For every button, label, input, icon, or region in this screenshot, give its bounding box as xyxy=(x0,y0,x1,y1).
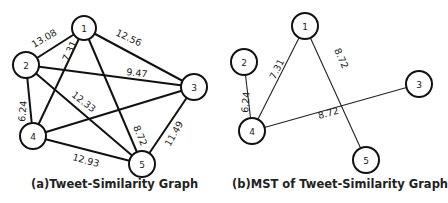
edge-label-a-3-5: 11.49 xyxy=(162,119,185,148)
svg-text:5: 5 xyxy=(139,160,145,170)
diagram-canvas: 13.08 7.31 12.56 8.72 9.47 12.33 6.24 11… xyxy=(0,0,448,203)
svg-text:4: 4 xyxy=(30,132,36,142)
svg-text:2: 2 xyxy=(241,58,247,68)
edge-a-2-3 xyxy=(26,65,194,87)
edge-label-a-2-5: 12.33 xyxy=(70,89,98,114)
svg-text:1: 1 xyxy=(302,22,308,32)
node-b-4: 4 xyxy=(239,118,265,144)
node-b-3: 3 xyxy=(406,71,432,97)
node-b-2: 2 xyxy=(231,49,257,75)
edge-label-b-3-4: 8.72 xyxy=(317,105,340,121)
edge-label-a-1-3: 12.56 xyxy=(114,27,143,48)
edge-b-1-5 xyxy=(305,26,366,160)
edge-label-b-2-4: 6.24 xyxy=(239,91,252,113)
node-a-5: 5 xyxy=(129,151,155,177)
svg-text:2: 2 xyxy=(23,61,29,71)
graph-b-nodes: 1 2 3 4 5 xyxy=(231,13,432,173)
graph-b: 7.31 8.72 6.24 8.72 1 2 3 4 xyxy=(231,13,432,173)
svg-text:5: 5 xyxy=(363,156,369,166)
caption-b: (b)MST of Tweet-Similarity Graph xyxy=(232,177,448,191)
svg-text:4: 4 xyxy=(249,127,255,137)
svg-text:3: 3 xyxy=(416,80,422,90)
edge-label-a-4-5: 12.93 xyxy=(71,151,100,169)
node-b-5: 5 xyxy=(353,147,379,173)
graph-b-edges xyxy=(244,26,419,160)
edge-label-a-2-4: 6.24 xyxy=(16,100,29,122)
edge-label-b-1-5: 8.72 xyxy=(332,46,351,70)
graph-a: 13.08 7.31 12.56 8.72 9.47 12.33 6.24 11… xyxy=(13,16,207,177)
node-b-1: 1 xyxy=(292,13,318,39)
node-a-1: 1 xyxy=(72,16,96,40)
node-a-4: 4 xyxy=(20,123,46,149)
node-a-2: 2 xyxy=(13,52,39,78)
edge-a-1-5 xyxy=(84,28,142,164)
node-a-3: 3 xyxy=(181,74,207,100)
svg-text:3: 3 xyxy=(191,83,197,93)
svg-text:1: 1 xyxy=(81,24,87,34)
caption-a: (a)Tweet-Similarity Graph xyxy=(31,177,198,191)
edge-b-1-4 xyxy=(252,26,305,131)
